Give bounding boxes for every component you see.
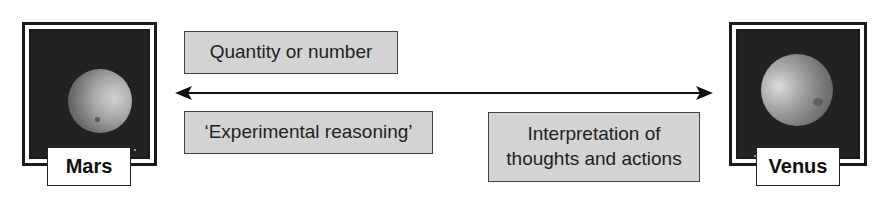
mars-image xyxy=(29,29,150,159)
concept-experimental-reasoning-box: ‘Experimental reasoning’ xyxy=(184,111,433,154)
concept-interpretation-line2: thoughts and actions xyxy=(506,147,681,172)
concept-interpretation-line1: Interpretation of xyxy=(527,122,660,147)
venus-frame xyxy=(729,22,867,166)
venus-image xyxy=(736,29,860,159)
concept-interpretation-box: Interpretation of thoughts and actions xyxy=(488,112,700,182)
double-arrow-icon xyxy=(170,82,720,104)
venus-spot xyxy=(813,98,823,106)
mars-spot xyxy=(95,117,100,122)
mars-frame xyxy=(22,22,157,166)
concept-quantity-box: Quantity or number xyxy=(184,31,398,74)
star-icon xyxy=(134,149,136,151)
venus-planet-icon xyxy=(761,54,833,126)
venus-label: Venus xyxy=(756,147,840,186)
mars-label: Mars xyxy=(47,147,131,186)
mars-planet-icon xyxy=(68,69,132,133)
